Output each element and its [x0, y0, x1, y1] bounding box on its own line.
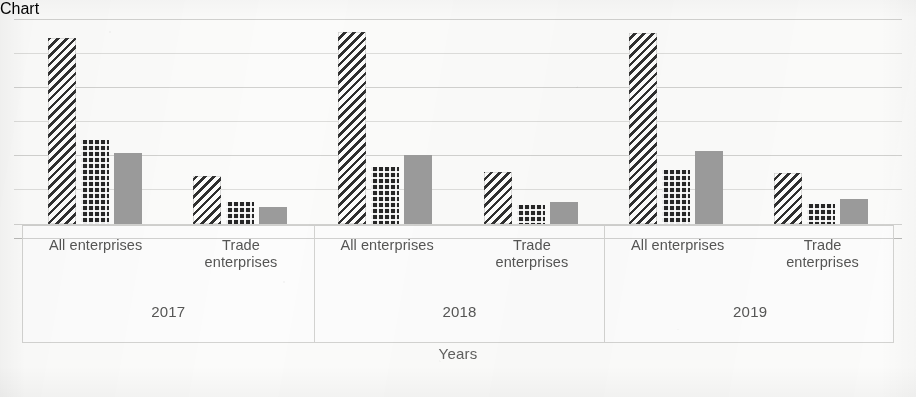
gridline — [14, 53, 902, 54]
category-label-table: All enterprisesTradeenterprises2017All e… — [22, 225, 894, 343]
bar-2018-trade-series-1 — [484, 172, 512, 224]
bar-2017-all-series-3 — [114, 153, 142, 224]
bar-2019-trade-series-2 — [807, 204, 835, 224]
gridline — [14, 19, 902, 20]
year-label: 2017 — [151, 303, 185, 320]
category-row: All enterprisesTradeenterprises — [23, 226, 314, 288]
x-axis-title: Years — [0, 345, 916, 362]
bar-2018-trade-series-2 — [517, 205, 545, 224]
bar-2019-all-series-2 — [662, 170, 690, 224]
year-row: 2019 — [605, 288, 895, 344]
gridline — [14, 189, 902, 190]
year-label: 2019 — [733, 303, 767, 320]
bar-2019-all-series-1 — [629, 33, 657, 224]
year-block-2018: All enterprisesTradeenterprises2018 — [314, 226, 605, 342]
bar-2018-trade-series-3 — [550, 202, 578, 224]
category-cell-all-enterprises: All enterprises — [23, 226, 168, 288]
category-cell-trade-enterprises: Tradeenterprises — [459, 226, 604, 288]
category-cell-trade-enterprises: Tradeenterprises — [168, 226, 313, 288]
category-label: Tradeenterprises — [495, 237, 568, 271]
year-label: 2018 — [442, 303, 476, 320]
category-label: All enterprises — [340, 237, 433, 254]
gridline — [14, 155, 902, 156]
bar-2018-all-series-2 — [371, 167, 399, 224]
gridline — [14, 121, 902, 122]
category-label: All enterprises — [49, 237, 142, 254]
plot-area — [0, 14, 916, 225]
bar-2017-all-series-1 — [48, 38, 76, 224]
year-row: 2017 — [23, 288, 314, 344]
bar-2017-all-series-2 — [81, 140, 109, 224]
bar-2017-trade-series-2 — [226, 202, 254, 224]
year-block-2019: All enterprisesTradeenterprises2019 — [604, 226, 895, 342]
bar-2019-trade-series-1 — [774, 173, 802, 224]
category-row: All enterprisesTradeenterprises — [315, 226, 605, 288]
category-cell-all-enterprises: All enterprises — [315, 226, 460, 288]
gridline — [14, 87, 902, 88]
bar-2017-trade-series-1 — [193, 176, 221, 224]
category-label: All enterprises — [631, 237, 724, 254]
category-cell-all-enterprises: All enterprises — [605, 226, 750, 288]
year-block-2017: All enterprisesTradeenterprises2017 — [23, 226, 314, 342]
bar-chart: All enterprisesTradeenterprises2017All e… — [0, 0, 916, 397]
bar-2018-all-series-1 — [338, 32, 366, 224]
bar-2017-trade-series-3 — [259, 207, 287, 224]
category-label: Tradeenterprises — [205, 237, 278, 271]
bar-2019-trade-series-3 — [840, 199, 868, 224]
category-cell-trade-enterprises: Tradeenterprises — [750, 226, 895, 288]
category-label: Tradeenterprises — [786, 237, 859, 271]
bar-2018-all-series-3 — [404, 155, 432, 224]
year-row: 2018 — [315, 288, 605, 344]
category-row: All enterprisesTradeenterprises — [605, 226, 895, 288]
bar-2019-all-series-3 — [695, 151, 723, 224]
